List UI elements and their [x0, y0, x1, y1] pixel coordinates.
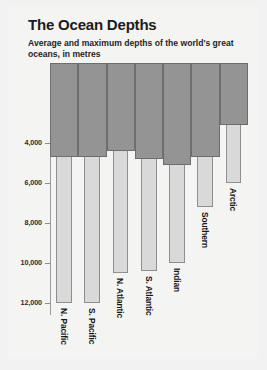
- bar-category-label: Arctic: [228, 188, 238, 211]
- chart-page: The Ocean Depths Average and maximum dep…: [0, 0, 267, 370]
- bar-group[interactable]: Arctic: [220, 63, 248, 315]
- y-axis-tick-mark: [45, 183, 50, 184]
- bar-group[interactable]: S. Atlantic: [135, 63, 163, 315]
- bar-average-depth[interactable]: [50, 63, 78, 157]
- bar-average-depth[interactable]: [220, 63, 248, 125]
- bar-average-depth[interactable]: [135, 63, 163, 159]
- plot-area: N. PacificS. PacificN. AtlanticS. Atlant…: [50, 63, 248, 315]
- bar-group[interactable]: Indian: [163, 63, 191, 315]
- y-axis-tick-mark: [45, 143, 50, 144]
- bar-category-label: Southern: [200, 212, 210, 248]
- bar-group[interactable]: N. Pacific: [50, 63, 78, 315]
- y-axis-tick-label: 12,000: [21, 298, 42, 307]
- bar-group[interactable]: S. Pacific: [78, 63, 106, 315]
- bar-category-label: S. Atlantic: [144, 276, 154, 316]
- bar-category-label: N. Pacific: [59, 308, 69, 345]
- chart-card: The Ocean Depths Average and maximum dep…: [8, 6, 259, 358]
- y-axis-tick-mark: [45, 303, 50, 304]
- y-axis-tick-label: 6,000: [25, 178, 43, 187]
- chart-plot: 4,0006,0008,00010,00012,000 N. PacificS.…: [8, 6, 259, 358]
- bar-group[interactable]: N. Atlantic: [107, 63, 135, 315]
- y-axis-tick-mark: [45, 263, 50, 264]
- bar-category-label: N. Atlantic: [115, 278, 125, 318]
- y-axis-tick-label: 10,000: [21, 258, 42, 267]
- bar-average-depth[interactable]: [78, 63, 106, 157]
- y-axis-tick-label: 4,000: [25, 138, 43, 147]
- bar-category-label: Indian: [172, 268, 182, 292]
- bar-average-depth[interactable]: [163, 63, 191, 165]
- bar-average-depth[interactable]: [107, 63, 135, 151]
- y-axis-tick-mark: [45, 223, 50, 224]
- bar-average-depth[interactable]: [191, 63, 219, 157]
- y-axis-tick-label: 8,000: [25, 218, 43, 227]
- bar-category-label: S. Pacific: [87, 308, 97, 344]
- bar-group[interactable]: Southern: [191, 63, 219, 315]
